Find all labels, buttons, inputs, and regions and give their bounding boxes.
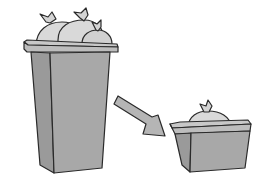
small-trash-bin-icon — [170, 100, 251, 172]
illustration: Reduce waste: large bin to small bin — [0, 0, 266, 194]
arrow-icon — [114, 96, 165, 136]
large-trash-bin-icon — [24, 8, 118, 173]
